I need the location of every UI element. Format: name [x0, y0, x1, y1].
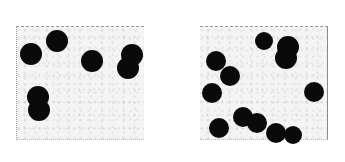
dot	[220, 66, 240, 86]
dot	[255, 32, 273, 50]
dot	[117, 57, 139, 79]
dot	[209, 118, 229, 138]
dot	[247, 113, 267, 133]
dot	[266, 123, 286, 143]
dot	[304, 82, 324, 102]
dot	[81, 50, 103, 72]
dot	[275, 47, 297, 69]
dot	[202, 83, 222, 103]
dot	[284, 126, 302, 144]
dot	[20, 43, 42, 65]
dot	[28, 99, 50, 121]
dot	[46, 30, 68, 52]
